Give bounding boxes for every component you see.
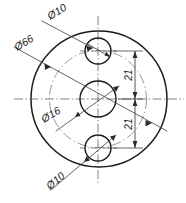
top-hole-leader-line [42, 21, 93, 48]
top-hole-label: Ø10 [44, 1, 69, 22]
dimension-arrow-lower-bottom [133, 141, 138, 148]
bottom-hole-label: Ø10 [43, 169, 67, 192]
drawing-canvas: Ø10 Ø66 Ø16 Ø10 21 21 [0, 0, 186, 203]
dimension-label-lower: 21 [123, 118, 134, 130]
dimension-arrow-upper-top [133, 51, 138, 58]
center-hole-label: Ø16 [38, 104, 63, 125]
center-hole-leader-line [56, 86, 119, 131]
bottom-hole-leader-arrow [110, 135, 116, 141]
technical-drawing: Ø10 Ø66 Ø16 Ø10 21 21 [0, 0, 186, 203]
top-hole-slash-arrow [105, 52, 111, 58]
bolt-circle-leader-line [14, 47, 167, 131]
dimension-arrow-upper-bottom [133, 92, 138, 99]
dimension-arrow-lower-top [133, 99, 138, 106]
bolt-circle-label: Ø66 [11, 32, 36, 53]
dimension-label-upper: 21 [123, 69, 134, 81]
bolt-circle-leader-arrow [45, 64, 52, 71]
